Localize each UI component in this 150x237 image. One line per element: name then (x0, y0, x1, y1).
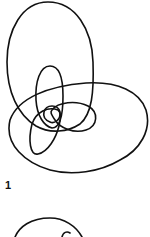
second-figure-arc-curve (14, 218, 82, 237)
second-figure-inner-curve (62, 232, 70, 237)
curve-drawing (0, 0, 150, 237)
curve-figure-1: 1 (0, 0, 150, 237)
figure-number-label: 1 (5, 180, 11, 191)
lower-oval-curve (9, 83, 148, 173)
